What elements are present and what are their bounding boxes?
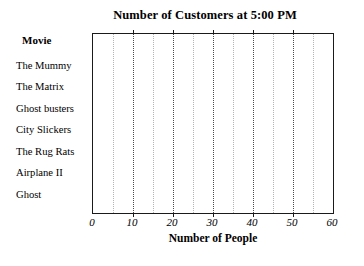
category-axis-title: Movie xyxy=(22,34,51,46)
category-label-the-rug-rats: The Rug Rats xyxy=(0,146,88,158)
value-tick-label-20: 20 xyxy=(167,216,178,228)
bars-layer xyxy=(93,34,333,213)
category-label-city-slickers: City Slickers xyxy=(0,124,88,136)
category-label-the-mummy: The Mummy xyxy=(0,60,88,72)
value-tick-label-40: 40 xyxy=(247,216,258,228)
category-label-ghost: Ghost xyxy=(0,189,88,201)
value-axis: Number of People 0102030405060 xyxy=(92,216,334,256)
value-tick-label-0: 0 xyxy=(89,216,95,228)
chart-title: Number of Customers at 5:00 PM xyxy=(60,8,350,23)
value-tick-label-60: 60 xyxy=(327,216,338,228)
category-label-the-matrix: The Matrix xyxy=(0,81,88,93)
value-tick-label-10: 10 xyxy=(127,216,138,228)
bar-chart-figure: Number of Customers at 5:00 PM Movie The… xyxy=(0,0,364,266)
category-axis: Movie The Mummy The Matrix Ghost busters… xyxy=(0,32,92,214)
category-label-ghost-busters: Ghost busters xyxy=(0,103,88,115)
category-label-airplane-ii: Airplane II xyxy=(0,167,88,179)
plot-area xyxy=(92,33,334,214)
value-tick-label-30: 30 xyxy=(207,216,218,228)
value-tick-label-50: 50 xyxy=(287,216,298,228)
value-axis-title: Number of People xyxy=(92,232,334,244)
